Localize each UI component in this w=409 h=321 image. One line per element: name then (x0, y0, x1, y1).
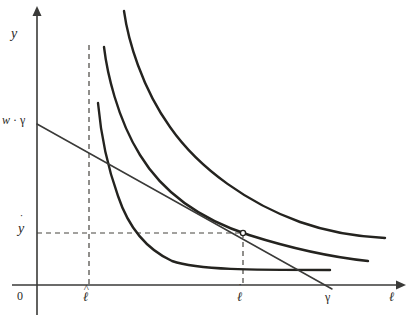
gamma-tick-label: γ (325, 291, 330, 303)
y-axis-label: y (11, 27, 17, 41)
l-tilde-accent: ˙ (238, 282, 242, 293)
figure-canvas (0, 0, 409, 321)
l-tilde-tick-label: ˙ ℓ (237, 290, 242, 303)
indifference-curve-low (98, 103, 330, 270)
y-hat-label: ˙ y (18, 222, 24, 236)
l-hat-accent: ^ (84, 283, 89, 294)
l-hat-tick-label: ^ ℓ (83, 290, 88, 303)
origin-label: 0 (17, 290, 23, 302)
tangency-point-marker (240, 230, 245, 235)
y-hat-accent: ˙ (20, 214, 24, 226)
indifference-curve-high (124, 11, 385, 238)
x-axis-arrowhead (396, 281, 406, 290)
x-axis-label: ℓ (389, 290, 394, 303)
indifference-curve-figure: y w · γ ˙ y 0 ^ ℓ ˙ ℓ γ ℓ (0, 0, 409, 321)
wage-gamma-label: w · γ (2, 114, 25, 126)
y-axis-arrowhead (33, 6, 42, 16)
guide-lines (37, 45, 243, 285)
